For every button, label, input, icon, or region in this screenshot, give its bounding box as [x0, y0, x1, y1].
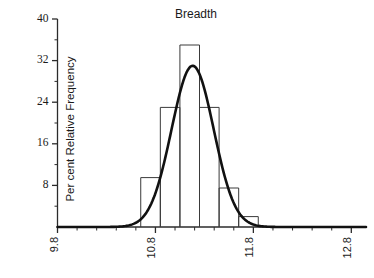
chart-background — [0, 0, 374, 278]
y-tick-label: 40 — [37, 12, 49, 24]
y-tick-label: 24 — [37, 95, 49, 107]
chart-canvas: Breadth 816243240 Per cent Relative Freq… — [0, 0, 374, 278]
x-tick-label: 10.8 — [145, 237, 157, 258]
y-tick-label: 8 — [43, 178, 49, 190]
chart-title: Breadth — [175, 7, 217, 21]
y-tick-label: 32 — [37, 53, 49, 65]
histogram-chart: Breadth 816243240 Per cent Relative Freq… — [0, 0, 374, 278]
x-tick-label: 9.8 — [48, 237, 60, 252]
x-tick-label: 12.8 — [341, 237, 353, 258]
y-tick-label: 16 — [37, 136, 49, 148]
x-tick-label: 11.8 — [243, 237, 255, 258]
y-axis-title: Per cent Relative Frequency — [64, 56, 76, 201]
